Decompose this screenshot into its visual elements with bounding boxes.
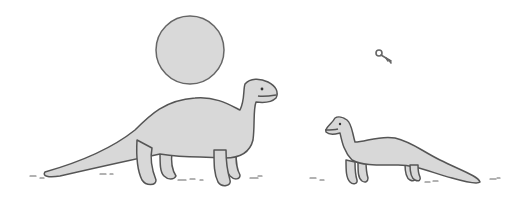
ground-marks	[30, 174, 500, 182]
small-dinosaur	[325, 117, 480, 184]
scene-drawing	[0, 0, 523, 197]
illustration-scene	[0, 0, 523, 197]
moon	[156, 16, 224, 84]
large-dinosaur	[44, 79, 277, 185]
key-icon	[376, 50, 391, 63]
